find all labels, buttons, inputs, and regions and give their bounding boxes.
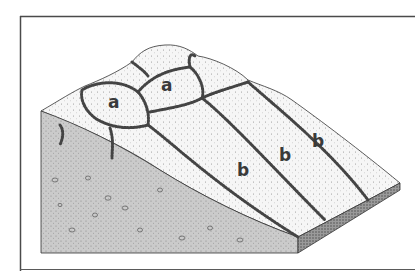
patterned-ground-diagram: a a b b b — [0, 0, 415, 271]
stripe-label-b3: b — [312, 131, 324, 151]
polygon-label-a1: a — [108, 92, 119, 112]
stripe-label-b2: b — [279, 145, 291, 165]
stripe-label-b1: b — [237, 160, 249, 180]
polygon-label-a2: a — [161, 75, 172, 95]
